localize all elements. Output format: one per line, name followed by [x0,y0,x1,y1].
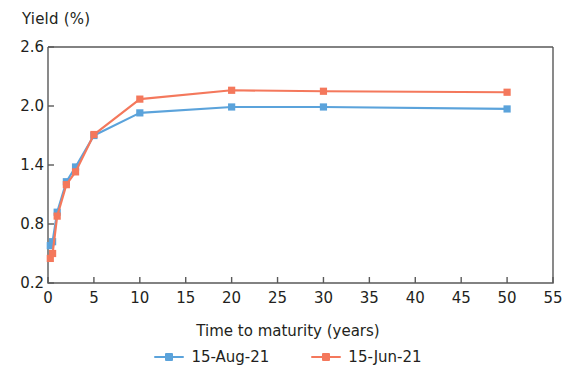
x-tick-label: 50 [487,289,527,307]
legend-swatch-icon [311,351,341,363]
data-point-marker [320,88,327,95]
legend-item-15-jun-21[interactable]: 15-Jun-21 [311,348,421,366]
x-tick-label: 15 [166,289,206,307]
x-tick-label: 20 [212,289,252,307]
data-series-layer [47,87,511,262]
x-axis-title: Time to maturity (years) [0,322,576,340]
data-point-marker [228,87,235,94]
y-tick-label: 0.8 [4,215,44,233]
y-axis-tick-labels: 2.6 2.0 1.4 0.8 0.2 [0,0,44,376]
y-tick-label: 2.6 [4,38,44,56]
legend-swatch-icon [154,351,184,363]
x-tick-label: 55 [533,289,573,307]
data-point-marker [136,109,143,116]
axis-frame [48,47,553,283]
data-point-marker [63,181,70,188]
x-tick-label: 10 [120,289,160,307]
chart-legend: 15-Aug-21 15-Jun-21 [0,348,576,366]
legend-label: 15-Jun-21 [348,348,421,366]
y-tick-label: 1.4 [4,156,44,174]
data-point-marker [90,131,97,138]
x-tick-label: 0 [28,289,68,307]
x-tick-label: 30 [303,289,343,307]
data-point-marker [320,103,327,110]
x-tick-label: 40 [395,289,435,307]
plot-area [0,0,576,376]
data-point-marker [503,89,510,96]
x-tick-marks [48,277,553,283]
series-line [50,90,507,258]
legend-item-15-aug-21[interactable]: 15-Aug-21 [154,348,269,366]
series-15-jun-21 [47,87,511,262]
y-tick-label: 2.0 [4,97,44,115]
data-point-marker [503,105,510,112]
x-tick-label: 5 [74,289,114,307]
data-point-marker [228,103,235,110]
data-point-marker [49,250,56,257]
series-15-aug-21 [47,103,511,249]
yield-curve-chart: Yield (%) 2.6 2.0 1.4 0.8 0.2 0510152025… [0,0,576,376]
x-tick-label: 25 [258,289,298,307]
x-tick-label: 35 [349,289,389,307]
x-tick-label: 45 [441,289,481,307]
series-line [50,107,507,246]
data-point-marker [136,96,143,103]
x-axis-tick-labels: 0510152025303540455055 [0,289,576,313]
data-point-marker [72,168,79,175]
legend-label: 15-Aug-21 [191,348,269,366]
data-point-marker [54,213,61,220]
